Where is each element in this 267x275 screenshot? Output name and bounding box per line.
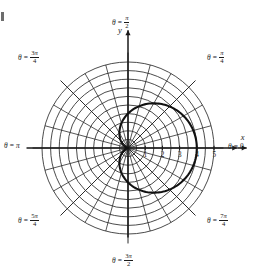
grid-spoke-165deg [45, 126, 128, 148]
angle-label-theta-3pi-4: θ = 3π4 [18, 50, 39, 65]
radial-tick-label-1: 1 [144, 151, 148, 159]
angle-label-theta-0: θ = 0 [228, 143, 244, 150]
grid-spoke-135deg [61, 81, 129, 149]
radial-tick-label-2: 2 [161, 151, 165, 159]
angle-label-theta-7pi-4: θ = 7π4 [207, 213, 228, 228]
axis-names-group: xy [117, 25, 245, 142]
x-axis-label: x [240, 132, 245, 142]
radial-tick-label-3: 3 [178, 151, 182, 159]
angle-label-theta-pi: θ = π [4, 142, 20, 149]
page-corner-mark [1, 12, 4, 21]
polar-grid-svg: 12345 xy [0, 0, 267, 275]
angle-label-theta-5pi-4: θ = 5π4 [18, 213, 39, 228]
polar-plot-figure: 12345 xy θ = π2 θ = π4 θ = 3π4 θ = π θ =… [0, 0, 267, 275]
radial-tick-label-5: 5 [212, 151, 216, 159]
angle-label-theta-3pi-2: θ = 3π2 [112, 253, 133, 268]
y-axis-arrowhead [125, 30, 130, 35]
angle-label-theta-pi-4: θ = π4 [207, 50, 225, 65]
grid-spoke-255deg [106, 148, 128, 231]
angle-label-theta-pi-2: θ = π2 [112, 15, 130, 30]
grid-spoke-45deg [128, 81, 196, 149]
grid-spoke-15deg [128, 126, 211, 148]
grid-spoke-105deg [106, 65, 128, 148]
grid-spoke-225deg [61, 148, 129, 216]
grid-spoke-195deg [45, 148, 128, 170]
